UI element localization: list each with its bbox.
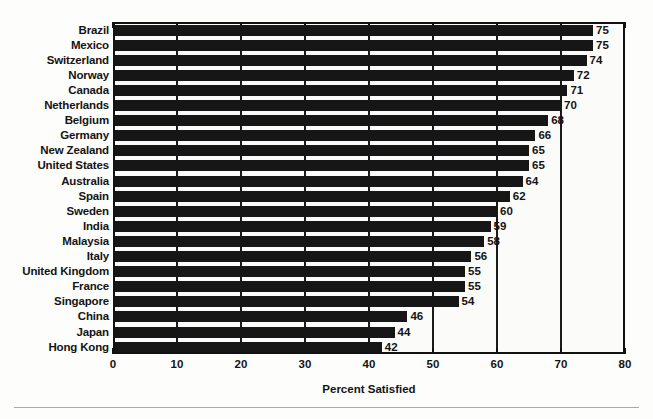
x-axis-tick-labels: 01020304050607080 bbox=[113, 358, 625, 374]
category-label: Netherlands bbox=[44, 98, 109, 113]
category-label: France bbox=[72, 279, 109, 294]
axis-line-right bbox=[623, 22, 625, 354]
category-label: Belgium bbox=[65, 113, 109, 128]
x-tick-label-50: 50 bbox=[413, 358, 453, 370]
category-label: United Kingdom bbox=[22, 264, 109, 279]
bar-value-label: 44 bbox=[398, 325, 411, 340]
bar bbox=[113, 40, 593, 51]
bar bbox=[113, 327, 395, 338]
bar-group: 7575747271706866656564626059585655555446… bbox=[113, 22, 625, 354]
bar bbox=[113, 342, 382, 353]
bar bbox=[113, 176, 523, 187]
bar bbox=[113, 55, 587, 66]
axis-line-top bbox=[113, 22, 625, 24]
bar-value-label: 71 bbox=[570, 83, 583, 98]
bar-value-label: 58 bbox=[487, 234, 500, 249]
bar bbox=[113, 296, 459, 307]
x-tick-label-40: 40 bbox=[349, 358, 389, 370]
bar-chart-figure: BrazilMexicoSwitzerlandNorwayCanadaNethe… bbox=[0, 0, 653, 419]
category-label: Spain bbox=[78, 189, 109, 204]
bar-value-label: 55 bbox=[468, 264, 481, 279]
category-label-column: BrazilMexicoSwitzerlandNorwayCanadaNethe… bbox=[0, 22, 109, 354]
bar bbox=[113, 70, 574, 81]
plot-area: 7575747271706866656564626059585655555446… bbox=[113, 22, 625, 354]
bar-value-label: 55 bbox=[468, 279, 481, 294]
category-label: Germany bbox=[60, 128, 109, 143]
category-label: Australia bbox=[61, 174, 109, 189]
bar bbox=[113, 191, 510, 202]
category-label: Norway bbox=[68, 68, 109, 83]
bar bbox=[113, 25, 593, 36]
category-label: Brazil bbox=[79, 23, 109, 38]
bar bbox=[113, 251, 471, 262]
bar bbox=[113, 85, 567, 96]
category-label: Canada bbox=[68, 83, 109, 98]
bar-value-label: 72 bbox=[577, 68, 590, 83]
bar bbox=[113, 145, 529, 156]
category-label: India bbox=[83, 219, 109, 234]
bar-value-label: 74 bbox=[590, 53, 603, 68]
category-label: Japan bbox=[77, 325, 110, 340]
bar bbox=[113, 281, 465, 292]
x-tick-label-70: 70 bbox=[541, 358, 581, 370]
bar-value-label: 62 bbox=[513, 189, 526, 204]
category-label: Mexico bbox=[71, 38, 109, 53]
x-tick-label-0: 0 bbox=[93, 358, 133, 370]
category-label: Sweden bbox=[66, 204, 109, 219]
x-tick-label-30: 30 bbox=[285, 358, 325, 370]
bar-value-label: 65 bbox=[532, 158, 545, 173]
bar bbox=[113, 221, 491, 232]
bar bbox=[113, 206, 497, 217]
bar-value-label: 60 bbox=[500, 204, 513, 219]
x-tick-label-80: 80 bbox=[605, 358, 645, 370]
footer-divider bbox=[14, 407, 639, 408]
axis-line-left bbox=[113, 22, 115, 354]
bar-value-label: 59 bbox=[494, 219, 507, 234]
category-label: United States bbox=[37, 158, 109, 173]
bar-value-label: 46 bbox=[410, 309, 423, 324]
bar-value-label: 65 bbox=[532, 143, 545, 158]
category-label: Singapore bbox=[54, 294, 109, 309]
x-tick-label-60: 60 bbox=[477, 358, 517, 370]
axis-line-bottom bbox=[113, 352, 625, 354]
category-label: Malaysia bbox=[62, 234, 109, 249]
bar-value-label: 70 bbox=[564, 98, 577, 113]
bar-value-label: 75 bbox=[596, 23, 609, 38]
bar-value-label: 56 bbox=[474, 249, 487, 264]
category-label: New Zealand bbox=[40, 143, 109, 158]
bar-value-label: 68 bbox=[551, 113, 564, 128]
bar-value-label: 75 bbox=[596, 38, 609, 53]
category-label: Italy bbox=[87, 249, 109, 264]
bar bbox=[113, 100, 561, 111]
category-label: China bbox=[78, 309, 109, 324]
category-label: Hong Kong bbox=[48, 340, 109, 355]
bar bbox=[113, 160, 529, 171]
x-tick-label-20: 20 bbox=[221, 358, 261, 370]
x-axis-title: Percent Satisfied bbox=[113, 383, 625, 395]
bar bbox=[113, 236, 484, 247]
bar bbox=[113, 266, 465, 277]
bar-value-label: 64 bbox=[526, 174, 539, 189]
x-tick-label-10: 10 bbox=[157, 358, 197, 370]
bar-value-label: 54 bbox=[462, 294, 475, 309]
bar bbox=[113, 311, 407, 322]
bar-value-label: 66 bbox=[538, 128, 551, 143]
category-label: Switzerland bbox=[47, 53, 109, 68]
bar bbox=[113, 115, 548, 126]
bar bbox=[113, 130, 535, 141]
